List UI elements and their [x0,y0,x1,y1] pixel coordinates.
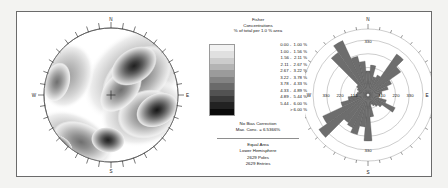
rose-radial-tick-left-mid: 220 [336,93,344,98]
rose-tick [410,146,412,148]
legend-panel: Fisher Concentrations % of total per 1.0… [203,17,313,173]
rose-center-dot [367,94,370,97]
rose-radial-tick-left-outer: 330 [322,93,330,98]
rose-label-north: N [366,17,369,22]
rose-tick [308,128,311,130]
stereonet-label-east: E [186,93,189,98]
stereonet-label-north: N [109,17,112,22]
rose-tick [305,118,306,119]
legend-class-list: 0.00 - 1.00 % 1.00 - 1.56 % 1.56 - 2.11 … [245,42,309,114]
rose-tick [308,61,311,63]
rose-tick [356,160,357,163]
rose-label-south: S [366,170,369,175]
rose-tick [356,27,357,30]
rose-radial-tick-top: 330 [364,39,372,44]
rose-tick [391,30,392,33]
stereonet-label-west: W [32,93,37,98]
rose-diagram-panel: N S E W 330 330 110 220 330 110 220 330 [305,14,431,176]
rose-tick [344,30,345,33]
rose-tick [401,152,403,155]
rose-tick [344,157,345,160]
rose-tick [315,51,317,53]
rose-radial-tick-right-mid: 220 [392,93,400,98]
legend-color-ramp-wrapper [209,44,235,116]
rose-tick [401,35,403,38]
footer-block: Equal Area Lower Hemisphere 2629 Poles 2… [203,142,313,167]
legend-divider [217,138,299,139]
rose-tick [425,61,428,63]
rose-radial-tick-bottom: 330 [364,148,372,153]
rose-petals [319,41,404,141]
rose-radial-tick-right-inner: 110 [379,93,386,98]
rose-label-east: E [425,93,428,98]
rose-tick [334,35,336,38]
rose-label-west: W [307,93,312,98]
stereonet-svg: N E S W [23,16,199,174]
rose-tick [305,71,306,72]
legend-color-ramp [209,44,235,116]
rose-tick [419,137,421,139]
rose-tick [324,42,326,44]
rose-diagram-svg: N S E W 330 330 110 220 330 110 220 330 [305,14,431,176]
max-concentration-value: Max. Conc. = 6.5366% [203,127,313,133]
rose-tick [419,51,421,53]
rose-tick [391,157,392,160]
rose-radial-tick-left-inner: 110 [351,93,358,98]
rose-tick [334,152,336,155]
stereonet-label-south: S [109,169,112,174]
entry-count: 2629 Entries [203,161,313,167]
rose-radial-tick-right-outer: 330 [406,93,414,98]
legend-title-units: % of total per 1.0 % area [203,28,313,34]
figure-page: N E S W Fisher Concentrations % of total… [0,0,448,188]
rose-tick [379,27,380,30]
rose-tick [324,146,326,148]
bias-block: No Bias Correction Max. Conc. = 6.5366% [203,121,313,133]
figure-frame: N E S W Fisher Concentrations % of total… [16,11,432,177]
rose-tick [430,71,431,72]
rose-tick [410,42,412,44]
rose-tick [315,137,317,139]
rose-tick [430,118,431,119]
stereonet-panel: N E S W [23,16,199,174]
rose-tick [425,128,428,130]
rose-tick [379,160,380,163]
legend-class: > 6.00 % [245,107,309,114]
